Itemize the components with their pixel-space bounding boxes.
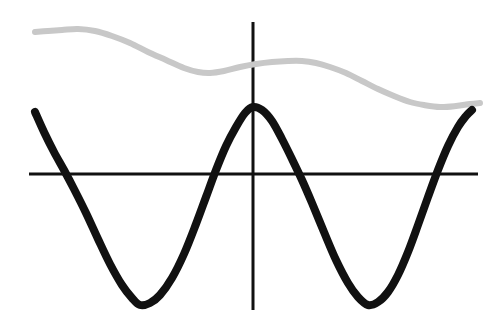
plot-canvas — [0, 0, 501, 325]
figure-root — [0, 0, 501, 325]
plot-background — [0, 0, 501, 325]
